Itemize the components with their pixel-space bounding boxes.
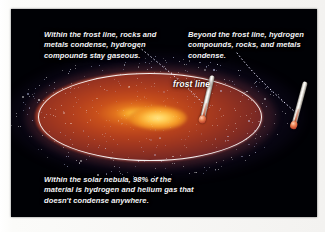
caption-inner-zone: Within the frost line, rocks and metals … bbox=[44, 30, 172, 61]
illustration-panel: frost line Within the frost line, rocks … bbox=[11, 9, 317, 217]
frost-line-ellipse bbox=[38, 73, 262, 161]
caption-nebula-composition: Within the solar nebula, 98% of the mate… bbox=[44, 175, 194, 206]
frost-line-label: frost line bbox=[173, 79, 210, 89]
caption-outer-zone: Beyond the frost line, hydrogen compound… bbox=[188, 30, 312, 61]
figure-container: frost line Within the frost line, rocks … bbox=[0, 0, 325, 232]
